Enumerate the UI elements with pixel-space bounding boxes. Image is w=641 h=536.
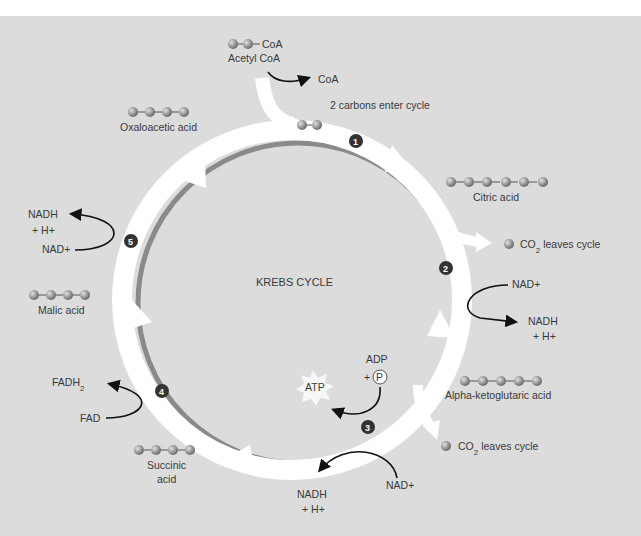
step-badge-2: 2	[439, 261, 453, 275]
svg-text:Citric acid: Citric acid	[473, 191, 519, 203]
svg-text:acid: acid	[157, 473, 176, 485]
svg-text:CO2 leaves cycle: CO2 leaves cycle	[520, 238, 600, 255]
diagram-title: KREBS CYCLE	[256, 276, 333, 288]
step-badge-1: 1	[349, 134, 363, 148]
svg-text:FADH2: FADH2	[52, 376, 85, 393]
acetyl-coa-formula: CoA	[262, 38, 282, 50]
step2-nad-input: NAD+	[512, 278, 540, 290]
step5-nad-arrow	[72, 214, 114, 250]
co2-leaves-cycle-2: CO2 leaves cycle	[441, 440, 538, 457]
step3-plus: +	[364, 371, 370, 383]
step3-nad-input: NAD+	[386, 479, 414, 491]
svg-text:Alpha-ketoglutaric acid: Alpha-ketoglutaric acid	[445, 389, 551, 401]
molecule-succinic-acid: Succinic acid	[134, 445, 195, 485]
acetyl-coa-label: Acetyl CoA	[228, 52, 280, 64]
step3-adp: ADP	[366, 353, 388, 365]
step3-h-output: + H+	[302, 503, 325, 515]
step5-h-output: + H+	[32, 224, 55, 236]
step-badge-5: 5	[124, 234, 138, 248]
svg-text:P: P	[376, 371, 383, 383]
atp-label: ATP	[305, 381, 325, 393]
molecule-malic-acid: Malic acid	[29, 290, 90, 316]
molecule-oxaloacetic-acid: Oxaloacetic acid	[120, 107, 197, 133]
molecule-alpha-ketoglutaric-acid: Alpha-ketoglutaric acid	[445, 376, 551, 401]
molecule-citric-acid: Citric acid	[446, 177, 548, 203]
svg-text:Malic acid: Malic acid	[38, 304, 85, 316]
coa-release-arrow	[268, 72, 308, 81]
step3-atp-arrow	[334, 387, 380, 414]
svg-text:Oxaloacetic acid: Oxaloacetic acid	[120, 121, 197, 133]
coa-released-label: CoA	[318, 73, 338, 85]
step2-h-output: + H+	[533, 330, 556, 342]
step2-nadh-output: NADH	[528, 315, 558, 327]
co2-leaves-cycle-1: CO2 leaves cycle	[504, 238, 600, 255]
acetyl-coa: CoA Acetyl CoA	[228, 38, 282, 64]
cycle-ring	[122, 130, 462, 470]
svg-text:5: 5	[128, 237, 133, 247]
step2-nad-arrow	[468, 285, 515, 322]
step5-nad-input: NAD+	[42, 243, 70, 255]
svg-text:4: 4	[159, 387, 164, 397]
svg-text:2: 2	[443, 264, 448, 274]
step5-nadh-output: NADH	[28, 208, 58, 220]
svg-text:Succinic: Succinic	[147, 459, 186, 471]
krebs-cycle-diagram: CoA Acetyl CoA CoA 2 carbons enter cycle…	[0, 0, 641, 536]
two-carbons-note: 2 carbons enter cycle	[330, 99, 430, 111]
step-badge-3: 3	[361, 420, 375, 434]
svg-text:1: 1	[353, 137, 358, 147]
step4-fad-input: FAD	[80, 412, 101, 424]
svg-text:CO2 leaves cycle: CO2 leaves cycle	[458, 440, 538, 457]
svg-text:3: 3	[365, 423, 370, 433]
step3-nadh-output: NADH	[297, 488, 327, 500]
step-badge-4: 4	[155, 384, 169, 398]
step4-fadh-output: FADH	[52, 376, 80, 388]
